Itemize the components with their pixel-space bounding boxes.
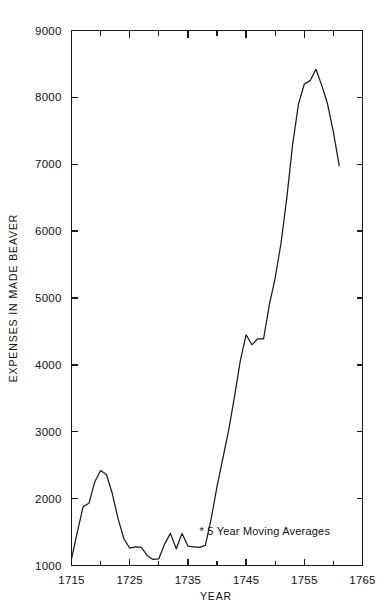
y-tick-label: 6000	[35, 225, 61, 237]
y-tick-label: 7000	[35, 158, 61, 170]
y-tick-label: 8000	[35, 91, 61, 103]
y-tick-label: 4000	[35, 359, 61, 371]
y-axis-title: EXPENSES IN MADE BEAVER	[7, 214, 19, 383]
x-tick-label: 1715	[58, 574, 84, 586]
x-tick-label: 1735	[175, 574, 201, 586]
x-tick-label: 1745	[233, 574, 259, 586]
x-tick-label: 1755	[291, 574, 317, 586]
chart-annotations: * 5 Year Moving Averages	[200, 525, 331, 537]
y-tick-label: 9000	[35, 25, 61, 37]
x-tick-label: 1765	[349, 574, 375, 586]
series-line	[72, 69, 340, 559]
y-tick-label: 3000	[35, 426, 61, 438]
data-series-group	[72, 69, 340, 559]
x-axis-tick-labels: 171517251735174517551765	[58, 574, 375, 586]
chart-container: 100020003000400050006000700080009000 171…	[0, 0, 389, 605]
x-tick-label: 1725	[117, 574, 143, 586]
line-chart: 100020003000400050006000700080009000 171…	[0, 0, 389, 605]
chart-annotation: * 5 Year Moving Averages	[200, 525, 331, 537]
y-tick-label: 2000	[35, 493, 61, 505]
y-axis-tick-labels: 100020003000400050006000700080009000	[35, 25, 61, 572]
y-tick-label: 1000	[35, 560, 61, 572]
x-axis-title: YEAR	[200, 590, 232, 602]
y-tick-label: 5000	[35, 292, 61, 304]
